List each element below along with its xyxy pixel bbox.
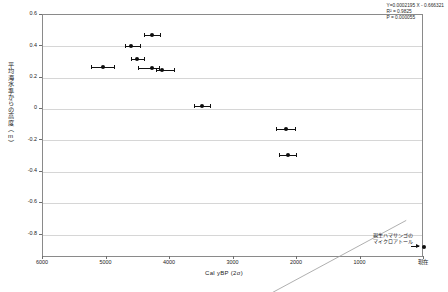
error-bar-cap bbox=[131, 57, 132, 61]
x-axis-tick-mark bbox=[106, 256, 107, 259]
regression-stats-annotation: Y=0.0002195 X - 0.666321 R² = 0.9825 P =… bbox=[387, 3, 444, 22]
error-bar-cap bbox=[279, 153, 280, 157]
data-point bbox=[135, 57, 139, 61]
y-axis-tick-mark bbox=[39, 108, 42, 109]
error-bar bbox=[156, 70, 174, 71]
y-axis-tick-mark bbox=[39, 234, 42, 235]
x-axis-tick-mark bbox=[423, 256, 424, 259]
y-axis-tick-mark bbox=[39, 202, 42, 203]
x-axis-tick-mark bbox=[169, 256, 170, 259]
y-axis-tick-mark bbox=[39, 45, 42, 46]
data-point bbox=[160, 68, 164, 72]
gridline bbox=[43, 172, 422, 173]
error-bar-cap bbox=[160, 33, 161, 37]
data-point bbox=[200, 104, 204, 108]
error-bar-cap bbox=[140, 44, 141, 48]
y-axis-tick-label: -0.6 bbox=[11, 199, 37, 204]
trendline bbox=[43, 15, 422, 256]
error-bar-cap bbox=[156, 68, 157, 72]
scatter-chart: 平均海水準からの高度（m） 0.60.40.20-0.2-0.4-0.6-0.8… bbox=[0, 0, 448, 292]
error-bar-cap bbox=[295, 127, 296, 131]
x-axis-tick-label: 2000 bbox=[290, 260, 302, 265]
x-axis-tick-label: 6000 bbox=[36, 260, 48, 265]
gridline bbox=[43, 78, 422, 79]
error-bar-cap bbox=[144, 57, 145, 61]
p-value: P = 0.000055 bbox=[387, 15, 444, 21]
y-axis-tick-label: 0.2 bbox=[11, 74, 37, 79]
error-bar-cap bbox=[276, 127, 277, 131]
x-axis-tick-mark bbox=[296, 256, 297, 259]
x-axis-tick-label: 1000 bbox=[354, 260, 366, 265]
data-point bbox=[284, 127, 288, 131]
x-axis-tick-mark bbox=[42, 256, 43, 259]
y-axis-tick-label: -0.8 bbox=[11, 231, 37, 236]
x-axis-tick-mark bbox=[360, 256, 361, 259]
gridline bbox=[43, 203, 422, 204]
data-point bbox=[150, 66, 154, 70]
data-point bbox=[129, 44, 133, 48]
gridline bbox=[43, 46, 422, 47]
data-point bbox=[101, 65, 105, 69]
y-axis-tick-mark bbox=[39, 139, 42, 140]
gridline bbox=[43, 140, 422, 141]
error-bar-cap bbox=[114, 65, 115, 69]
x-axis-tick-label: 3000 bbox=[227, 260, 239, 265]
y-axis-tick-label: -0.2 bbox=[11, 137, 37, 142]
x-axis-title: Cal yBP (2σ) bbox=[0, 270, 448, 276]
error-bar-cap bbox=[144, 33, 145, 37]
y-axis-tick-label: 0 bbox=[11, 105, 37, 110]
x-axis-tick-label: 4000 bbox=[163, 260, 175, 265]
x-axis-tick-label: 5000 bbox=[100, 260, 112, 265]
y-axis-tick-mark bbox=[39, 171, 42, 172]
data-point bbox=[150, 33, 154, 37]
data-point bbox=[286, 153, 290, 157]
error-bar-cap bbox=[174, 68, 175, 72]
gridline bbox=[43, 109, 422, 110]
annotation-arrow-icon bbox=[411, 246, 419, 247]
error-bar-cap bbox=[296, 153, 297, 157]
data-point bbox=[422, 245, 426, 249]
error-bar-cap bbox=[194, 104, 195, 108]
y-axis-tick-label: -0.4 bbox=[11, 168, 37, 173]
plot-area bbox=[42, 14, 423, 257]
x-axis-tick-label: 現在 bbox=[418, 260, 428, 265]
error-bar-cap bbox=[125, 44, 126, 48]
x-axis-tick-mark bbox=[233, 256, 234, 259]
modern-microatoll-annotation: 現生ハマサンゴの マイクロアトール bbox=[361, 232, 413, 245]
error-bar-cap bbox=[91, 65, 92, 69]
y-axis-tick-mark bbox=[39, 14, 42, 15]
error-bar-cap bbox=[210, 104, 211, 108]
y-axis-tick-label: 0.6 bbox=[11, 11, 37, 16]
error-bar-cap bbox=[138, 66, 139, 70]
y-axis-tick-label: 0.4 bbox=[11, 43, 37, 48]
modern-microatoll-line2: マイクロアトール bbox=[361, 238, 413, 244]
y-axis-tick-mark bbox=[39, 77, 42, 78]
